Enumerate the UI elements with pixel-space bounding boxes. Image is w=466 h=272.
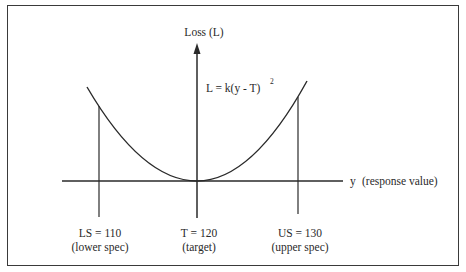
upper-spec-value: US = 130	[278, 228, 322, 240]
target-value: T = 120	[181, 228, 217, 240]
lower-spec-desc: (lower spec)	[71, 242, 128, 254]
lower-spec-value: LS = 110	[79, 228, 121, 240]
upper-spec-desc: (upper spec)	[271, 242, 328, 254]
target-desc: (target)	[182, 242, 216, 254]
formula: L = k(y - T)	[206, 83, 260, 95]
x-axis-label: (response value)	[362, 176, 438, 188]
y-axis-label: Loss (L)	[184, 27, 223, 39]
loss-diagram	[0, 0, 466, 272]
formula-exponent: 2	[270, 77, 274, 86]
y-axis-arrow-icon	[194, 43, 201, 54]
x-axis-symbol: y	[350, 176, 356, 188]
